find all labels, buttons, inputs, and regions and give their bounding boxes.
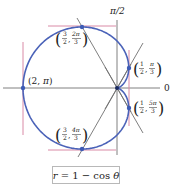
svg-text:3: 3 (74, 134, 78, 141)
point-1-2-pi-3 (127, 66, 131, 70)
svg-text:,: , (68, 35, 71, 44)
point-2-pi (21, 86, 25, 90)
label-point-2-pi: (2, π) (28, 76, 52, 86)
svg-text:,: , (68, 131, 71, 140)
svg-text:2π: 2π (71, 30, 81, 37)
svg-text:,: , (145, 65, 148, 74)
svg-text:): ) (156, 60, 162, 79)
svg-text:3: 3 (74, 38, 78, 45)
svg-text:π: π (149, 60, 155, 67)
svg-text:1: 1 (140, 99, 144, 106)
svg-text:): ) (82, 30, 88, 49)
pole-point (115, 86, 119, 90)
svg-text:(: ( (55, 30, 61, 49)
svg-text:2: 2 (63, 134, 67, 141)
svg-text:): ) (158, 99, 164, 118)
label-zero: 0 (164, 83, 170, 93)
svg-text:2: 2 (63, 38, 67, 45)
svg-text:2: 2 (140, 68, 144, 75)
cardioid-diagram: π/2 0 (2, π) ( 3 2 , 2π 3 ) ( 1 2 , π 3 … (0, 0, 173, 190)
svg-text:2: 2 (140, 107, 144, 114)
svg-text:4π: 4π (71, 126, 81, 133)
label-point-3-2-2pi-3: ( 3 2 , 2π 3 ) (55, 30, 88, 49)
svg-text:3: 3 (150, 68, 154, 75)
label-point-1-2-pi-3: ( 1 2 , π 3 ) (133, 60, 162, 79)
svg-text:): ) (82, 126, 88, 145)
svg-text:(: ( (133, 99, 139, 118)
label-pi-over-2: π/2 (109, 6, 125, 16)
point-1-2-5pi-3 (127, 106, 131, 110)
svg-text:3: 3 (63, 126, 67, 133)
svg-text:3: 3 (151, 107, 155, 114)
point-3-2-4pi-3 (80, 147, 84, 151)
label-point-3-2-4pi-3: ( 3 2 , 4π 3 ) (55, 126, 88, 145)
point-3-2-2pi-3 (80, 25, 84, 29)
svg-text:3: 3 (63, 30, 67, 37)
svg-text:,: , (145, 104, 148, 113)
label-point-1-2-5pi-3: ( 1 2 , 5π 3 ) (133, 99, 164, 118)
svg-text:(: ( (55, 126, 61, 145)
equation-caption: r = 1 − cos θ (52, 166, 120, 184)
svg-text:1: 1 (140, 60, 144, 67)
svg-text:(: ( (133, 60, 139, 79)
svg-text:5π: 5π (149, 99, 158, 106)
equation-text: r = 1 − cos θ (53, 170, 120, 181)
